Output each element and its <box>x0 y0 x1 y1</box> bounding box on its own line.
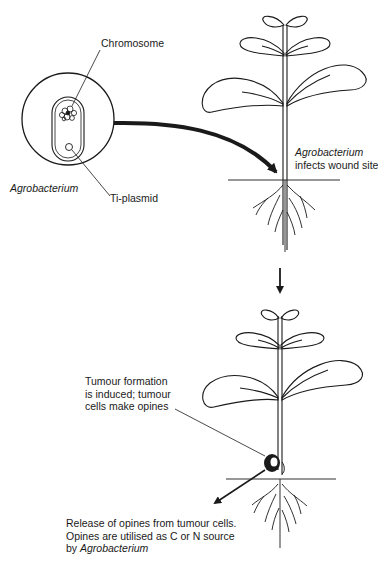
release-caption-line3-prefix: by <box>66 542 80 554</box>
plant-roots <box>253 180 315 252</box>
agrobacterium-label: Agrobacterium <box>10 182 78 195</box>
release-arrow <box>215 470 265 503</box>
plant-roots <box>252 479 307 548</box>
tumour-caption-line2: is induced; tumour <box>85 388 171 400</box>
tumour-caption: Tumour formation is induced; tumour cell… <box>85 375 171 413</box>
plant-infected <box>203 310 363 475</box>
chromosome-icon <box>59 106 76 121</box>
infection-arrow <box>114 123 276 172</box>
release-caption: Release of opines from tumour cells. Opi… <box>66 517 236 555</box>
ti-plasmid-icon <box>66 144 73 151</box>
infection-caption: Agrobacterium infects wound site <box>295 146 378 171</box>
release-caption-line3-organism: Agrobacterium <box>80 542 148 554</box>
infection-caption-organism: Agrobacterium <box>295 146 363 158</box>
ti-plasmid-label: Ti-plasmid <box>110 192 158 205</box>
tumour-caption-line3: cells make opines <box>85 400 168 412</box>
agrobacterium-cell <box>22 50 114 196</box>
plant-uninfected <box>202 16 366 250</box>
release-caption-line1: Release of opines from tumour cells. <box>66 517 236 529</box>
infection-caption-text: infects wound site <box>295 159 378 171</box>
diagram-canvas <box>0 0 378 565</box>
chromosome-label: Chromosome <box>101 37 164 50</box>
release-caption-line2: Opines are utilised as C or N source <box>66 530 235 542</box>
tumour-gall-icon <box>264 454 284 474</box>
tumour-caption-line1: Tumour formation <box>85 375 167 387</box>
